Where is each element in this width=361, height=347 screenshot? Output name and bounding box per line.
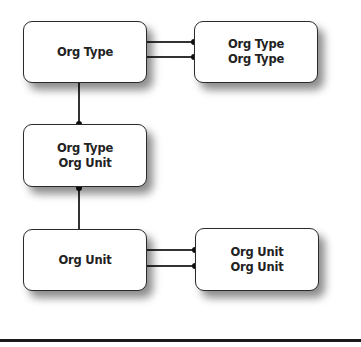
entity-label: Org Unit [230, 245, 283, 260]
entity-label: Org Type [228, 37, 284, 52]
entity-box-org-type-org-unit: Org Type Org Unit [23, 124, 147, 187]
entity-box-org-unit: Org Unit [23, 229, 147, 291]
connector-line [147, 41, 197, 43]
entity-box-org-type: Org Type [23, 21, 147, 83]
entity-label: Org Unit [58, 253, 111, 268]
bottom-divider [0, 339, 361, 342]
entity-label: Org Type [228, 52, 284, 67]
entity-box-org-type-org-type: Org Type Org Type [194, 21, 318, 83]
entity-relationship-diagram: Org Type Org Type Org Type Org Type Org … [0, 0, 361, 347]
connector-line [147, 249, 197, 251]
entity-box-org-unit-org-unit: Org Unit Org Unit [195, 228, 319, 291]
entity-label: Org Unit [58, 156, 111, 171]
connector-line [78, 187, 80, 229]
connector-line [147, 265, 197, 267]
entity-label: Org Type [57, 45, 113, 60]
connector-line [147, 56, 197, 58]
connector-line [78, 83, 80, 125]
entity-label: Org Type [57, 141, 113, 156]
entity-label: Org Unit [230, 260, 283, 275]
